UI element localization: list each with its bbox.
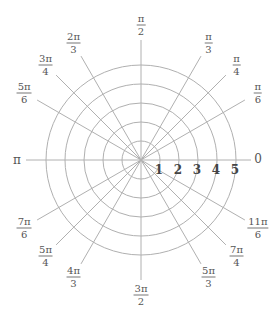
ray-240 (81, 160, 141, 264)
angle-label-210: 7π6 (17, 216, 32, 239)
fraction-denominator: 4 (229, 256, 244, 267)
fraction-numerator: 2π (66, 32, 81, 44)
angle-label-90: π2 (137, 14, 146, 37)
ray-60 (141, 56, 201, 160)
fraction-numerator: π (137, 14, 146, 26)
fraction-numerator: π (204, 32, 213, 44)
angle-label-45: π4 (232, 53, 241, 76)
radial-label-1: 1 (155, 163, 163, 177)
polar-grid-diagram: 0 π π6π4π3π22π33π45π67π65π44π33π25π37π41… (0, 0, 275, 320)
fraction-denominator: 4 (38, 256, 53, 267)
fraction-numerator: 11π (247, 216, 268, 228)
ray-135 (56, 75, 141, 160)
angle-label-30: π6 (254, 81, 263, 104)
angle-label-270: 3π2 (134, 284, 149, 307)
fraction-denominator: 6 (17, 93, 32, 104)
fraction-denominator: 3 (66, 277, 81, 288)
radial-label-5: 5 (231, 163, 239, 177)
angle-label-120: 2π3 (66, 32, 81, 55)
fraction-numerator: 7π (229, 244, 244, 256)
fraction-denominator: 4 (232, 65, 241, 76)
fraction-denominator: 6 (254, 93, 263, 104)
ray-225 (56, 160, 141, 245)
polar-grid (0, 0, 275, 320)
angle-label-135: 3π4 (38, 53, 53, 76)
fraction-numerator: 7π (17, 216, 32, 228)
angle-label-0: 0 (254, 152, 262, 166)
angle-label-315: 7π4 (229, 244, 244, 267)
radial-label-3: 3 (193, 163, 201, 177)
fraction-numerator: 3π (134, 284, 149, 296)
fraction-numerator: π (254, 81, 263, 93)
angle-label-300: 5π3 (201, 265, 216, 288)
fraction-numerator: π (232, 53, 241, 65)
ray-120 (81, 56, 141, 160)
fraction-denominator: 4 (38, 65, 53, 76)
fraction-denominator: 3 (201, 277, 216, 288)
angle-label-150: 5π6 (17, 81, 32, 104)
ray-210 (37, 160, 141, 220)
angle-label-225: 5π4 (38, 244, 53, 267)
angle-label-pi: π (13, 153, 21, 167)
fraction-denominator: 2 (134, 296, 149, 307)
fraction-denominator: 6 (247, 228, 268, 239)
fraction-numerator: 4π (66, 265, 81, 277)
fraction-denominator: 6 (17, 228, 32, 239)
fraction-numerator: 5π (17, 81, 32, 93)
angle-label-330: 11π6 (247, 216, 268, 239)
fraction-denominator: 3 (204, 44, 213, 55)
fraction-numerator: 5π (38, 244, 53, 256)
radial-label-4: 4 (212, 163, 220, 177)
fraction-denominator: 3 (66, 44, 81, 55)
fraction-numerator: 3π (38, 53, 53, 65)
angle-label-60: π3 (204, 32, 213, 55)
fraction-denominator: 2 (137, 26, 146, 37)
fraction-numerator: 5π (201, 265, 216, 277)
ray-45 (141, 75, 226, 160)
radial-label-2: 2 (174, 163, 182, 177)
angle-label-240: 4π3 (66, 265, 81, 288)
ray-30 (141, 100, 245, 160)
ray-150 (37, 100, 141, 160)
